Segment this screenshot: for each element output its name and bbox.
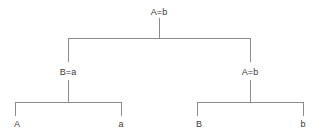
leaf-label-2: a (118, 119, 123, 130)
tree-diagram: A=b B=a A=b A a B b (0, 0, 320, 134)
leaf-label-4: b (300, 119, 305, 130)
leaf-label-3: B (196, 119, 202, 130)
node-label-root: A=b (151, 7, 167, 18)
leaf-label-1: A (14, 119, 20, 130)
node-label-right-internal: A=b (242, 67, 258, 78)
tree-connector-lines (0, 0, 320, 134)
node-label-left-internal: B=a (60, 67, 76, 78)
